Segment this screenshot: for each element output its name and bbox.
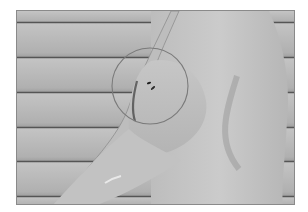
photo-frame xyxy=(16,10,295,205)
photograph xyxy=(17,11,295,205)
